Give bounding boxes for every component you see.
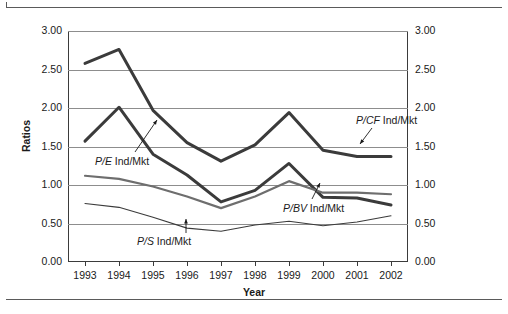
x-axis-tick: [391, 262, 392, 266]
y-axis-left-tick-label: 0.00: [28, 256, 62, 267]
annotation-leaders-group: [68, 31, 408, 262]
y-axis-right-tick-label: 1.00: [415, 179, 449, 190]
annotation-arrowhead: [184, 219, 188, 224]
figure-bottom-rule: [6, 299, 502, 300]
y-axis-left-tick-label: 2.00: [28, 102, 62, 113]
annotation-arrowhead: [360, 139, 364, 144]
x-axis-tick: [289, 262, 290, 266]
x-axis-tick: [119, 262, 120, 266]
series-annotation-label-symbol: P/CF: [356, 114, 380, 126]
y-axis-right-tick-label: 0.50: [415, 218, 449, 229]
y-axis-right-tick-label: 0.00: [415, 256, 449, 267]
figure-container: Ratios Year 0.000.501.001.502.002.503.00…: [0, 0, 508, 314]
series-annotation-label-symbol: P/E: [95, 155, 112, 167]
series-annotation-label: P/BV Ind/Mkt: [283, 202, 344, 214]
y-axis-left-tick-label: 2.50: [28, 64, 62, 75]
figure-top-rule: [6, 7, 502, 8]
x-axis-title: Year: [0, 286, 508, 298]
y-axis-right-tick-label: 2.00: [415, 102, 449, 113]
y-axis-left-tick-label: 3.00: [28, 25, 62, 36]
y-axis-right-tick-label: 3.00: [415, 25, 449, 36]
x-axis-tick: [323, 262, 324, 266]
x-axis-tick-label: 2002: [371, 269, 411, 281]
x-axis-tick: [187, 262, 188, 266]
y-axis-left-tick-label: 0.50: [28, 218, 62, 229]
x-axis-tick: [221, 262, 222, 266]
figure-top-rule-tick: [6, 2, 7, 8]
series-annotation-label-symbol: P/S: [137, 235, 154, 247]
plot-area: [68, 31, 408, 262]
x-axis-tick: [153, 262, 154, 266]
y-axis-right-tick-label: 2.50: [415, 64, 449, 75]
series-annotation-label: P/CF Ind/Mkt: [356, 114, 417, 126]
annotation-leader-line: [135, 120, 157, 152]
y-axis-left-tick-label: 1.50: [28, 141, 62, 152]
series-annotation-label: P/S Ind/Mkt: [137, 235, 191, 247]
y-axis-left-tick-label: 1.00: [28, 179, 62, 190]
series-annotation-label-symbol: P/BV: [283, 202, 307, 214]
annotation-arrowhead: [153, 120, 157, 125]
y-axis-right-tick-label: 1.50: [415, 141, 449, 152]
x-axis-tick: [357, 262, 358, 266]
x-axis-tick: [85, 262, 86, 266]
series-annotation-label: P/E Ind/Mkt: [95, 155, 149, 167]
y-axis-title: Ratios: [20, 106, 32, 166]
x-axis-tick: [255, 262, 256, 266]
